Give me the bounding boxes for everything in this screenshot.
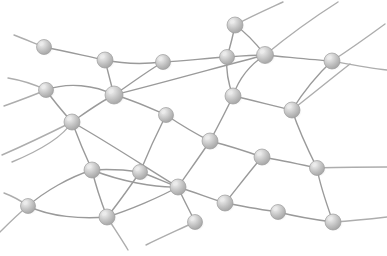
- mesh-node-sphere: [156, 55, 171, 70]
- mesh-node-sphere: [105, 86, 123, 104]
- mesh-node-sphere: [21, 199, 36, 214]
- mesh-node-sphere: [284, 102, 300, 118]
- mesh-node-sphere: [99, 209, 115, 225]
- mesh-node-sphere: [202, 133, 218, 149]
- mesh-node-sphere: [257, 47, 274, 64]
- mesh-node-sphere: [39, 83, 54, 98]
- mesh-node-sphere: [217, 195, 233, 211]
- mesh-node-sphere: [325, 214, 341, 230]
- mesh-node-sphere: [324, 53, 340, 69]
- mesh-node-sphere: [227, 17, 243, 33]
- mesh-node-sphere: [97, 52, 113, 68]
- network-mesh-figure: [0, 0, 387, 256]
- mesh-node-sphere: [37, 40, 52, 55]
- mesh-node-sphere: [64, 114, 80, 130]
- mesh-node-sphere: [133, 165, 148, 180]
- mesh-node-sphere: [170, 179, 186, 195]
- mesh-node-sphere: [84, 162, 100, 178]
- mesh-node-sphere: [188, 215, 203, 230]
- mesh-node-sphere: [254, 149, 270, 165]
- mesh-canvas: [0, 0, 387, 256]
- mesh-node-sphere: [159, 108, 174, 123]
- mesh-node-sphere: [271, 205, 286, 220]
- mesh-node-sphere: [220, 50, 235, 65]
- mesh-node-sphere: [225, 88, 241, 104]
- mesh-node-sphere: [310, 161, 325, 176]
